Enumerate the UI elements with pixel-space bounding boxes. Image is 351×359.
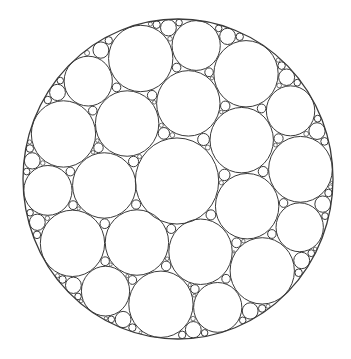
packed-circle	[185, 322, 201, 338]
packed-circle	[233, 251, 235, 253]
packed-circle	[210, 107, 273, 172]
packed-circle	[112, 83, 121, 92]
packed-circle	[24, 166, 72, 216]
packed-circle	[73, 153, 136, 218]
packed-circle	[242, 239, 245, 243]
packed-circle	[214, 41, 278, 107]
packed-circle	[193, 294, 196, 297]
packed-circle	[129, 324, 136, 332]
packed-circle	[205, 68, 214, 77]
packed-circle	[45, 216, 49, 221]
packed-circle	[27, 209, 34, 216]
packed-circle	[23, 168, 30, 175]
packed-circle	[215, 173, 278, 238]
packed-circle	[206, 210, 216, 220]
packed-circle	[167, 224, 176, 233]
packed-circle	[153, 21, 160, 29]
packed-circle	[24, 153, 40, 169]
packed-circle	[115, 311, 131, 327]
packed-circle	[165, 257, 169, 261]
packed-circle	[198, 133, 210, 145]
packed-circle	[169, 219, 232, 284]
packed-circle	[94, 143, 103, 153]
packed-circle	[172, 63, 181, 72]
packed-circle	[95, 91, 158, 156]
packed-circle	[101, 257, 110, 266]
packed-circle	[161, 20, 177, 36]
packed-circle	[69, 201, 78, 210]
packed-circle	[178, 331, 185, 339]
packed-circle	[279, 199, 288, 208]
packed-circle	[222, 274, 231, 283]
packed-circle	[221, 101, 230, 111]
packed-circle	[89, 106, 98, 115]
packed-circle	[31, 101, 95, 167]
packed-circle	[29, 214, 45, 230]
packed-circle	[269, 136, 333, 202]
packed-circle	[96, 139, 99, 143]
packed-circle	[66, 167, 75, 176]
packed-circle	[257, 104, 266, 113]
packed-circle	[194, 283, 242, 333]
packed-circle	[129, 156, 139, 166]
packed-circle	[41, 161, 45, 166]
packed-circle	[215, 25, 222, 32]
packed-circle	[126, 274, 129, 277]
packed-circle	[138, 154, 142, 158]
packed-circle	[147, 90, 156, 100]
packed-circle	[210, 77, 213, 80]
packed-circle	[325, 189, 332, 197]
packed-circle	[232, 238, 241, 248]
packed-circle	[157, 71, 220, 136]
packed-circle	[309, 123, 325, 140]
packed-circle	[172, 21, 220, 71]
packed-circle	[315, 196, 331, 212]
packed-circle	[159, 123, 163, 127]
packed-circle	[220, 28, 236, 44]
central-circle	[135, 138, 218, 224]
packed-circle	[148, 22, 152, 26]
packed-circle	[219, 169, 230, 180]
packed-circle	[109, 263, 112, 266]
packed-circle	[266, 86, 314, 136]
packed-circle	[191, 316, 195, 321]
packed-circle	[304, 131, 309, 136]
packed-circle	[276, 203, 323, 252]
packed-circle	[129, 271, 193, 337]
circle-packing-diagram	[0, 0, 351, 359]
packed-circle	[161, 261, 170, 271]
packed-circle	[81, 266, 129, 316]
packed-circle	[128, 276, 137, 285]
packed-circle	[220, 110, 224, 114]
packed-circle	[132, 200, 141, 209]
packed-circle	[242, 303, 258, 319]
packed-circle	[158, 128, 169, 140]
packed-circle	[91, 151, 94, 155]
packed-circle	[100, 219, 109, 229]
packed-circle	[176, 19, 183, 26]
packed-circle	[153, 100, 157, 104]
packed-circle	[105, 210, 168, 275]
packed-circle	[274, 134, 283, 143]
circle-packing-figure: Circle packing in a disk	[0, 0, 351, 359]
packed-circle	[258, 166, 268, 176]
packed-circle	[205, 145, 210, 150]
packed-circle	[191, 285, 200, 294]
packed-circle	[219, 181, 223, 185]
packed-circle	[274, 143, 278, 147]
packed-circle	[328, 185, 332, 189]
packed-circle	[170, 133, 175, 138]
packed-circle	[268, 230, 277, 239]
packed-circle	[188, 283, 191, 286]
packed-circle	[77, 207, 80, 210]
packed-circle	[40, 210, 104, 276]
packed-circle	[321, 138, 328, 146]
packed-circles	[23, 19, 332, 338]
packed-circle	[109, 25, 173, 91]
packed-circle	[322, 213, 329, 220]
packed-circle	[201, 330, 208, 337]
packed-circle	[277, 83, 282, 88]
packed-circle	[168, 36, 172, 41]
packed-circle	[26, 145, 33, 153]
